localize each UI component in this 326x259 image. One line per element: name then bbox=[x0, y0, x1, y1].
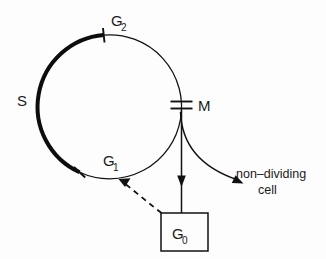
s-phase-label: S bbox=[17, 92, 27, 109]
non-dividing-cell-label-line1: non–dividing bbox=[236, 167, 306, 181]
m-to-non-dividing-curve bbox=[181, 112, 239, 180]
g0-to-g1-dashed-curve bbox=[126, 185, 162, 214]
s-phase-arc bbox=[38, 35, 104, 172]
m-to-g0-arrowhead-icon bbox=[177, 176, 186, 188]
m-phase-label: M bbox=[198, 97, 211, 114]
diagram-canvas: S G 2 M G 1 G 0 non–dividing cell bbox=[0, 0, 326, 259]
g2-phase-subscript: 2 bbox=[121, 22, 127, 33]
g2-tick-icon bbox=[103, 28, 105, 43]
cell-cycle-diagram: S G 2 M G 1 G 0 non–dividing cell bbox=[0, 0, 326, 259]
g1-phase-subscript: 1 bbox=[113, 162, 119, 173]
non-dividing-cell-label-line2: cell bbox=[258, 183, 277, 197]
g0-phase-subscript: 0 bbox=[182, 235, 188, 246]
cell-cycle-thin-arc bbox=[80, 35, 182, 179]
